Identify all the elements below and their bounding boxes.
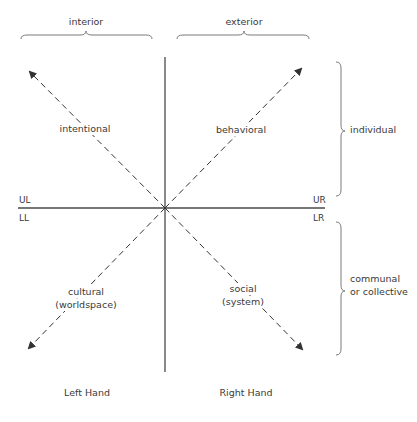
quadrant-label-behavioral: behavioral [215, 124, 267, 136]
quadrant-label-cultural-line2: (worldspace) [54, 299, 117, 311]
arrow-lower-left [29, 208, 165, 348]
quadrant-code-ur: UR [313, 194, 326, 206]
arrow-upper-right [165, 69, 301, 208]
individual-label: individual [350, 124, 396, 136]
quadrant-code-lr: LR [313, 212, 324, 224]
right-hand-label: Right Hand [219, 387, 272, 399]
exterior-label: exterior [225, 16, 262, 28]
left-hand-label: Left Hand [64, 387, 110, 399]
interior-brace [21, 31, 152, 39]
quadrant-code-ul: UL [19, 194, 31, 206]
arrow-lower-right [165, 208, 302, 349]
communal-brace [336, 222, 345, 355]
quadrant-code-ll: LL [19, 212, 29, 224]
quadrant-label-intentional: intentional [59, 123, 112, 135]
exterior-brace [177, 31, 309, 39]
quadrant-label-social-line2: (system) [221, 296, 265, 308]
individual-brace [336, 62, 345, 196]
arrow-upper-left [30, 72, 165, 208]
quadrant-diagram [0, 0, 417, 422]
communal-label-line1: communal [350, 273, 400, 285]
quadrant-label-cultural-line1: cultural [67, 286, 105, 298]
quadrant-label-social-line1: social [228, 283, 257, 295]
interior-label: interior [69, 16, 104, 28]
communal-label-line2: or collective [350, 286, 408, 298]
